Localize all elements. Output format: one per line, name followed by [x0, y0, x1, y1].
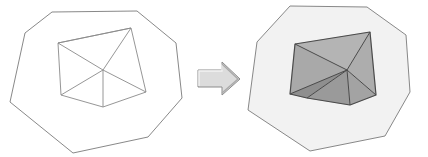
- figure-root: [0, 0, 428, 157]
- figure-canvas: [0, 0, 428, 157]
